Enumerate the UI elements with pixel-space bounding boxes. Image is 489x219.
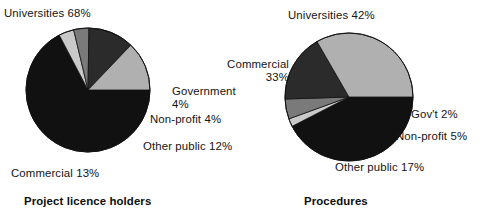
slice-label-universities-left: Universities 68% xyxy=(4,7,91,20)
slice-label-commercial-left: Commercial 13% xyxy=(11,167,99,180)
chart-title-project-licence-holders: Project licence holders xyxy=(24,195,151,207)
chart-title-procedures: Procedures xyxy=(304,195,368,207)
slice-label-non-profit-right: Non-profit 5% xyxy=(396,130,467,143)
slice-label-universities-right: Universities 42% xyxy=(288,9,375,22)
slice-label-other-public-left: Other public 12% xyxy=(143,140,232,153)
slice-label-commercial-right: Commercial 33% xyxy=(209,58,289,84)
pie-chart-figure: Universities 68% Government 4% Non-profi… xyxy=(0,0,489,219)
slice-label-government-right: Gov't 2% xyxy=(411,108,458,121)
slice-label-non-profit-left: Non-profit 4% xyxy=(150,113,221,126)
slice-label-other-public-right: Other public 17% xyxy=(335,161,424,174)
slice-label-government-left: Government 4% xyxy=(172,85,236,111)
